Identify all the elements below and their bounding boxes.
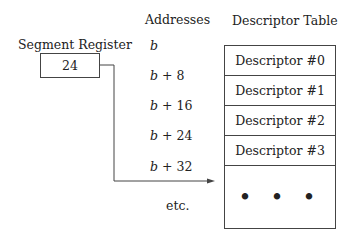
connector-arrow	[0, 0, 354, 237]
arrowhead-icon	[207, 179, 215, 184]
